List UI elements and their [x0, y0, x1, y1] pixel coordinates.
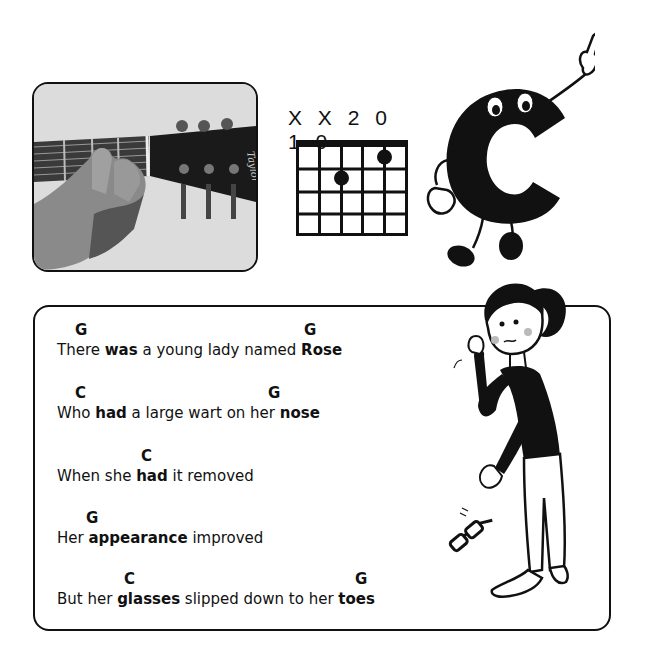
lyric-text: But her glasses slipped down to her toes	[57, 590, 375, 608]
chord-row: C	[57, 447, 254, 467]
chord-marker: G	[355, 570, 367, 588]
lyric-line-4: G Her appearance improved	[57, 509, 263, 547]
letter-c-body	[447, 89, 565, 224]
chord-marker: G	[268, 384, 280, 402]
chord-marker: C	[75, 384, 86, 402]
c-letter-mascot	[415, 30, 595, 279]
lyric-text: Her appearance improved	[57, 529, 263, 547]
lyric-text: When she had it removed	[57, 467, 254, 485]
girl-illustration	[440, 278, 590, 627]
lyric-line-5: C G But her glasses slipped down to her …	[57, 570, 375, 608]
chord-marker: G	[75, 321, 87, 339]
guitar-photo-image: Taylor	[34, 84, 256, 270]
lyric-line-3: C When she had it removed	[57, 447, 254, 485]
finger-dot-string5-fret1	[377, 150, 392, 165]
chord-nut	[296, 140, 408, 147]
pointing-hand-icon	[580, 34, 595, 75]
chord-row: G G	[57, 321, 342, 341]
chord-marker: C	[124, 570, 135, 588]
lyric-text: Who had a large wart on her nose	[57, 404, 320, 422]
chord-row: C G	[57, 384, 320, 404]
lyric-text: There was a young lady named Rose	[57, 341, 342, 359]
lyric-line-1: G G There was a young lady named Rose	[57, 321, 342, 359]
chord-diagram	[296, 140, 408, 240]
glasses-icon	[449, 513, 493, 552]
lyric-line-2: C G Who had a large wart on her nose	[57, 384, 320, 422]
waving-hand-icon	[428, 188, 455, 213]
finger-dot-string3-fret2	[334, 171, 349, 186]
chord-marker: C	[141, 447, 152, 465]
chord-marker: G	[304, 321, 316, 339]
chord-marker: G	[86, 509, 98, 527]
chord-row: C G	[57, 570, 375, 590]
chord-row: G	[57, 509, 263, 529]
guitar-chord-photo: Taylor	[32, 82, 258, 272]
